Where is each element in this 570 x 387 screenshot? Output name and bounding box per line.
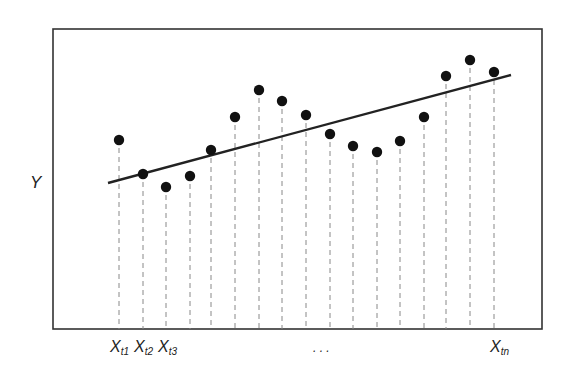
data-point xyxy=(372,147,382,157)
y-axis-label: Y xyxy=(30,173,43,192)
data-point xyxy=(114,135,124,145)
x-label-t3: Xt3 xyxy=(157,338,177,357)
data-point xyxy=(161,182,171,192)
x-labels: Xt1 Xt2 Xt3 . . . Xtn xyxy=(109,338,509,357)
trend-line xyxy=(108,75,511,183)
data-point xyxy=(230,112,240,122)
data-point xyxy=(441,71,451,81)
data-point xyxy=(325,129,335,139)
guide-lines xyxy=(119,68,494,329)
data-point xyxy=(254,85,264,95)
x-label-t1: Xt1 xyxy=(109,338,129,357)
scatter-trend-diagram: Y Xt1 Xt2 Xt3 . . . Xtn xyxy=(0,0,570,387)
data-point xyxy=(348,141,358,151)
data-point xyxy=(465,55,475,65)
data-point xyxy=(185,171,195,181)
data-point xyxy=(395,136,405,146)
data-point xyxy=(206,145,216,155)
data-point xyxy=(301,110,311,120)
data-point xyxy=(489,67,499,77)
x-label-tn: Xtn xyxy=(489,338,509,357)
x-label-t2: Xt2 xyxy=(133,338,153,357)
data-point xyxy=(277,96,287,106)
data-point xyxy=(138,169,148,179)
x-label-ellipsis: . . . xyxy=(313,341,330,355)
data-point xyxy=(419,112,429,122)
